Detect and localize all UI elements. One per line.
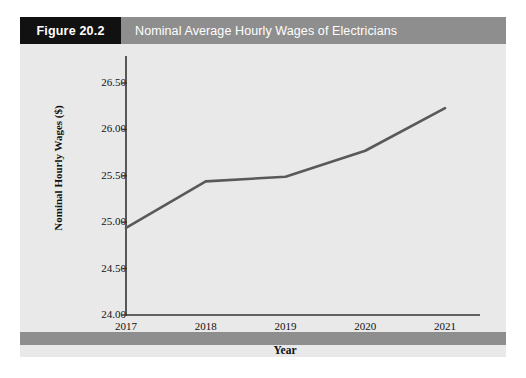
figure-title: Nominal Average Hourly Wages of Electric… (121, 17, 506, 44)
figure-footer-bar (20, 332, 506, 345)
wage-trend-line (126, 108, 445, 228)
line-chart-plot (20, 44, 506, 332)
figure-number-label: Figure 20.2 (20, 17, 121, 44)
x-axis-title: Year (120, 344, 450, 356)
plot-region: Nominal Hourly Wages ($) 24.0024.5025.00… (20, 44, 506, 332)
figure-header: Figure 20.2 Nominal Average Hourly Wages… (20, 17, 506, 44)
chart-area: Nominal Hourly Wages ($) 24.0024.5025.00… (20, 44, 506, 332)
chart-axes (126, 56, 480, 315)
figure-container: Figure 20.2 Nominal Average Hourly Wages… (20, 17, 506, 357)
